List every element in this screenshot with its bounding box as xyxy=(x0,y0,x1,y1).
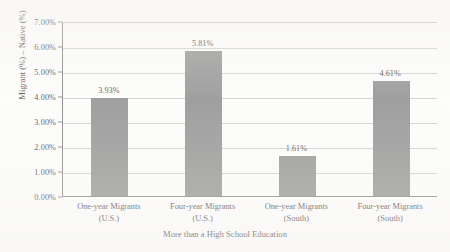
y-axis-tick-label: 6.00% xyxy=(0,43,56,52)
bar[interactable] xyxy=(279,156,316,196)
bar[interactable] xyxy=(373,81,410,196)
y-axis-tick-label: 5.00% xyxy=(0,68,56,77)
y-axis-tick-labels: 0.00%1.00%2.00%3.00%4.00%5.00%6.00%7.00% xyxy=(0,0,58,252)
bar-value-label: 1.61% xyxy=(266,144,326,153)
x-axis-category-line1: Four-year Migrants xyxy=(358,202,423,211)
bar-chart-figure: Migrant (%) – Native (%) 0.00%1.00%2.00%… xyxy=(0,0,450,252)
x-axis-category-line1: Four-year Migrants xyxy=(170,202,235,211)
y-axis-tick-label: 7.00% xyxy=(0,18,56,27)
y-axis-tick-label: 0.00% xyxy=(0,193,56,202)
bar[interactable] xyxy=(185,51,222,196)
bar[interactable] xyxy=(91,98,128,196)
x-axis-category-line1: One-year Migrants xyxy=(77,202,141,211)
bar-value-label: 3.93% xyxy=(79,86,139,95)
y-axis-tick-label: 2.00% xyxy=(0,143,56,152)
bar-value-label: 4.61% xyxy=(360,69,420,78)
x-axis-category-line1: One-year Migrants xyxy=(265,202,329,211)
plot-area xyxy=(62,22,437,197)
x-axis-category-line2: (South) xyxy=(335,213,445,225)
x-axis-category-label: Four-year Migrants(South) xyxy=(335,201,445,224)
y-axis-tick-label: 1.00% xyxy=(0,168,56,177)
x-axis-title: More than a High School Education xyxy=(0,229,450,239)
bar-value-label: 5.81% xyxy=(173,39,233,48)
gridline xyxy=(63,48,437,49)
y-axis-tick-label: 3.00% xyxy=(0,118,56,127)
y-axis-tick-label: 4.00% xyxy=(0,93,56,102)
